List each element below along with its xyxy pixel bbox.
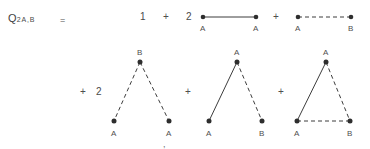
term6-node-right — [348, 119, 353, 124]
term6-label-right: B — [347, 129, 353, 138]
term6-node-apex — [324, 60, 329, 65]
term6-node-left — [295, 119, 300, 124]
trailing-mark: , — [163, 139, 166, 149]
term6-edge-left — [297, 62, 326, 121]
term6-label-apex: A — [323, 48, 329, 57]
term6-graph — [0, 0, 370, 149]
term6-label-left: A — [294, 129, 300, 138]
term6-edge-right — [326, 62, 350, 121]
figure-canvas: Q2A,B = 1 + 2 A A + A B + 2 B A A + A — [0, 0, 370, 149]
